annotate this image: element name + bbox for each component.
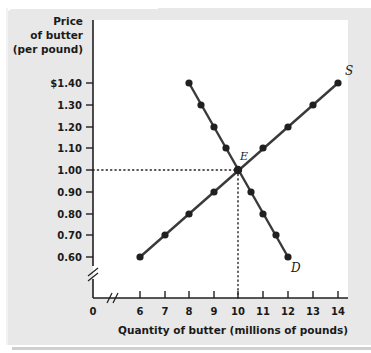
figure-container: Price of butter (per pound) $1.40 1.30 1… [0,0,371,353]
y-axis-ticks [86,83,93,257]
x-tick-label-9: 9 [211,306,218,317]
demand-point [284,253,291,260]
x-axis-title: Quantity of butter (millions of pounds) [118,324,348,336]
y-axis-title-line-2: of butter [30,29,84,41]
supply-point [284,123,291,130]
supply-point [334,79,341,86]
y-tick-label-0-80: 0.80 [57,209,82,220]
y-axis-title-line-1: Price [53,15,83,27]
x-tick-label-10: 10 [231,306,245,317]
plot-area-background [93,20,348,298]
x-tick-label-12: 12 [281,306,295,317]
x-tick-label-6: 6 [137,306,144,317]
x-tick-label-7: 7 [162,306,169,317]
x-tick-label-8: 8 [186,306,193,317]
y-tick-label-0-60: 0.60 [57,252,82,263]
equilibrium-label: E [239,150,248,163]
y-tick-label-0-90: 0.90 [57,187,82,198]
y-tick-label-1-10: 1.10 [57,143,82,154]
supply-point [161,231,168,238]
demand-point [222,144,229,151]
y-tick-label-1-00: 1.00 [57,165,82,176]
y-tick-label-1-20: 1.20 [57,122,82,133]
demand-point [272,231,279,238]
axis-origin-label: 0 [90,306,97,317]
demand-point [210,123,217,130]
supply-point [309,101,316,108]
demand-point [247,188,254,195]
x-tick-label-14: 14 [331,306,345,317]
demand-point [197,101,204,108]
y-tick-label-0-70: 0.70 [57,230,82,241]
demand-curve-label: D [290,261,301,275]
supply-point [185,210,192,217]
x-tick-label-11: 11 [256,306,270,317]
supply-demand-chart: Price of butter (per pound) $1.40 1.30 1… [0,0,371,353]
y-tick-label-1-40: $1.40 [50,78,82,89]
demand-point [185,79,192,86]
supply-curve-label: S [345,64,353,78]
demand-point [259,210,266,217]
y-tick-label-1-30: 1.30 [57,100,82,111]
supply-point [210,188,217,195]
supply-point [259,144,266,151]
supply-point [136,253,143,260]
equilibrium-point-marker [234,166,242,174]
y-axis-title-line-3: (per pound) [13,43,83,55]
x-tick-label-13: 13 [306,306,320,317]
